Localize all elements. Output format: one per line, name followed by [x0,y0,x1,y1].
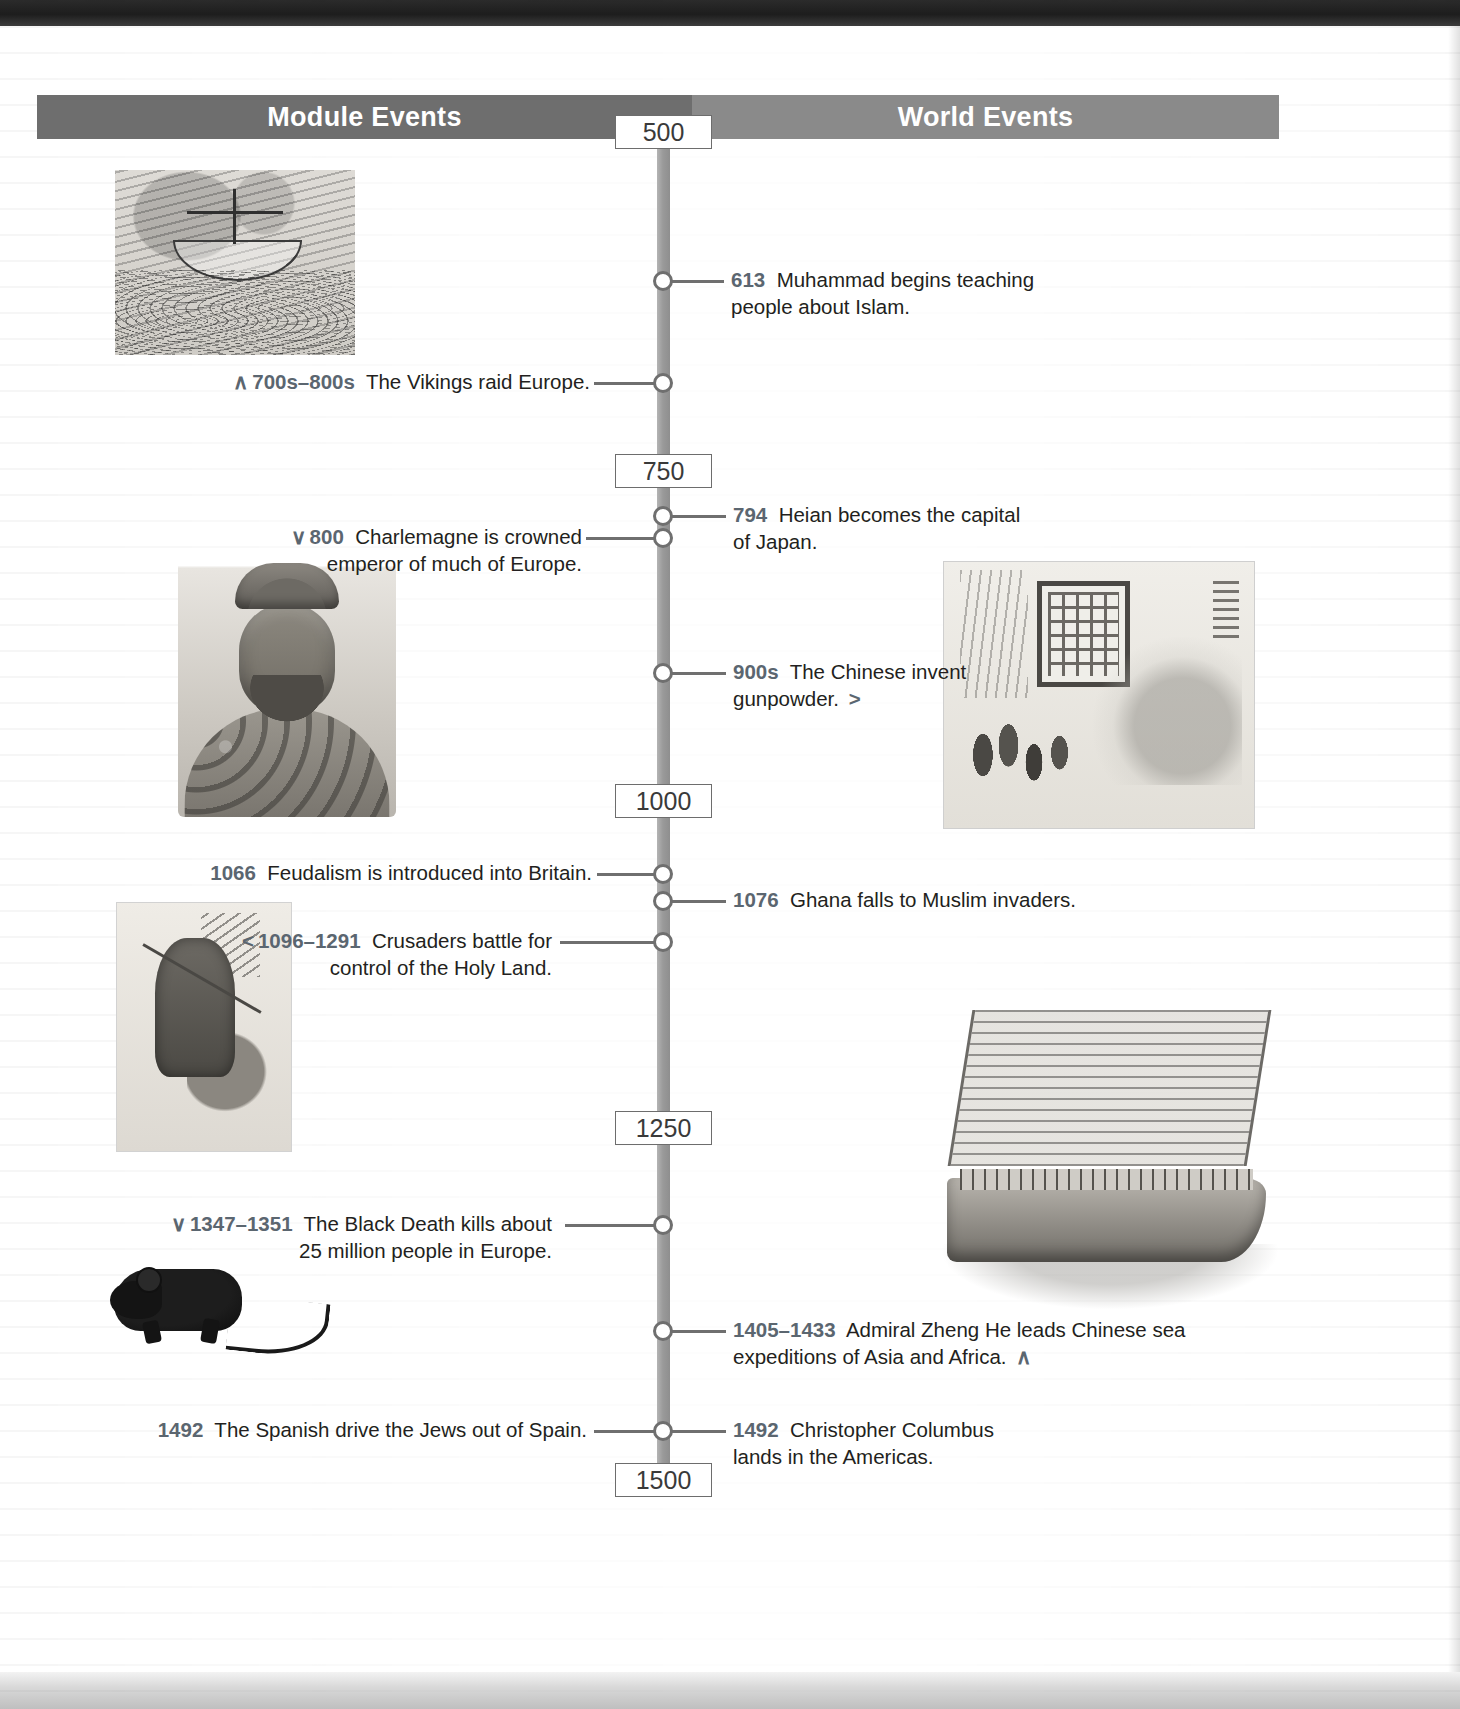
event-1492-left-year: 1492 [158,1418,204,1441]
event-613-text: Muhammad begins teaching people about Is… [731,268,1034,318]
event-800-text: Charlemagne is crowned emperor of much o… [327,525,582,575]
event-1096-1291-year: 1096–1291 [258,929,361,952]
datebox-1000: 1000 [615,784,712,818]
page-edge-right [1448,26,1460,1672]
black-rat-illustration [110,1255,332,1363]
node-613 [653,271,673,291]
event-794-text: Heian becomes the capital of Japan. [733,503,1020,553]
chinese-gunpowder-painting [943,561,1255,829]
event-1076-year: 1076 [733,888,779,911]
event-800: ∨800 Charlemagne is crowned emperor of m… [230,523,582,577]
event-1076: 1076 Ghana falls to Muslim invaders. [733,886,1153,913]
datebox-1250: 1250 [615,1111,712,1145]
up-arrow-icon: ∧ [229,368,252,395]
event-900s: 900s The Chinese invent gunpowder. > [733,658,983,712]
leader-1066 [597,873,654,876]
leader-1492-right [672,1430,726,1433]
node-1076 [653,891,673,911]
leader-1096-1291 [560,941,654,944]
event-1066-year: 1066 [210,861,256,884]
event-1066-text: Feudalism is introduced into Britain. [267,861,592,884]
leader-613 [672,280,724,283]
event-1096-1291-text: Crusaders battle for control of the Holy… [330,929,552,979]
datebox-750-label: 750 [643,457,685,486]
node-1066 [653,864,673,884]
node-700s-800s [653,373,673,393]
left-arrow-icon: < [238,927,258,954]
module-events-header-label: Module Events [267,102,461,133]
leader-800 [586,537,654,540]
page-edge-top [0,0,1460,26]
leader-1347-1351 [565,1224,654,1227]
up-arrow-icon-2: ∧ [1012,1343,1035,1370]
event-1492-right-year: 1492 [733,1418,779,1441]
event-700s-800s-year: 700s–800s [252,370,355,393]
zheng-he-treasure-ship-illustration [940,1010,1280,1310]
page-edge-bottom [0,1672,1460,1709]
event-1076-text: Ghana falls to Muslim invaders. [790,888,1076,911]
event-1405-1433-year: 1405–1433 [733,1318,836,1341]
datebox-1000-label: 1000 [636,787,692,816]
leader-1076 [672,900,726,903]
datebox-750: 750 [615,454,712,488]
event-1347-1351-text: The Black Death kills about 25 million p… [299,1212,552,1262]
event-794: 794 Heian becomes the capital of Japan. [733,501,1033,555]
event-700s-800s-text: The Vikings raid Europe. [366,370,590,393]
event-1492-left-text: The Spanish drive the Jews out of Spain. [214,1418,587,1441]
datebox-1500: 1500 [615,1463,712,1497]
event-1347-1351: ∨1347–1351 The Black Death kills about 2… [150,1210,552,1264]
event-1347-1351-year: 1347–1351 [190,1212,293,1235]
event-613: 613 Muhammad begins teaching people abou… [731,266,1061,320]
datebox-500: 500 [615,115,712,149]
leader-900s [672,672,726,675]
node-900s [653,663,673,683]
event-1492-right: 1492 Christopher Columbus lands in the A… [733,1416,1033,1470]
viking-ship-illustration [115,170,355,355]
leader-1405-1433 [672,1330,726,1333]
down-arrow-icon: ∨ [287,523,310,550]
node-800 [653,528,673,548]
node-1492 [653,1421,673,1441]
leader-794 [672,515,726,518]
event-1066: 1066 Feudalism is introduced into Britai… [180,859,592,886]
datebox-1250-label: 1250 [636,1114,692,1143]
leader-700s-800s [594,382,654,385]
charlemagne-bust-photo [178,555,396,817]
node-1405-1433 [653,1321,673,1341]
event-800-year: 800 [310,525,344,548]
event-700s-800s: ∧700s–800s The Vikings raid Europe. [190,368,590,395]
event-794-year: 794 [733,503,767,526]
leader-1492-left [594,1430,654,1433]
event-1492-left: 1492 The Spanish drive the Jews out of S… [150,1416,587,1443]
right-arrow-icon: > [845,685,865,712]
event-900s-year: 900s [733,660,779,683]
module-events-header: Module Events [37,95,692,139]
event-1405-1433: 1405–1433 Admiral Zheng He leads Chinese… [733,1316,1193,1370]
node-794 [653,506,673,526]
world-events-header-label: World Events [898,102,1074,133]
event-1096-1291: <1096–1291 Crusaders battle for control … [230,927,552,981]
down-arrow-icon-2: ∨ [167,1210,190,1237]
event-613-year: 613 [731,268,765,291]
node-1347-1351 [653,1215,673,1235]
datebox-500-label: 500 [643,118,685,147]
node-1096-1291 [653,932,673,952]
world-events-header: World Events [692,95,1279,139]
datebox-1500-label: 1500 [636,1466,692,1495]
